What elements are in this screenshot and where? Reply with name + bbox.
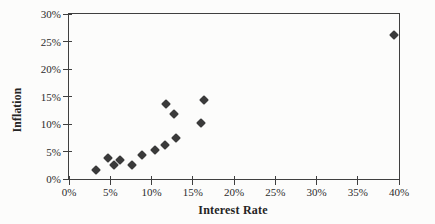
y-axis-tick-mark [63, 69, 72, 70]
y-axis-tick-mark [63, 124, 72, 125]
x-axis-title: Interest Rate [68, 203, 398, 218]
x-axis-tick-mark [69, 176, 70, 185]
x-axis-tick-label: 10% [132, 186, 172, 198]
x-axis-tick-label: 0% [49, 186, 89, 198]
y-axis-tick-label: 20% [31, 63, 61, 75]
plot-area: 0%5%10%15%20%25%30%0%5%10%15%20%25%30%35… [68, 13, 400, 180]
x-axis-tick-label: 5% [90, 186, 130, 198]
x-axis-tick-mark [110, 176, 111, 185]
x-axis-tick-mark [399, 176, 400, 185]
y-axis-tick-label: 15% [31, 91, 61, 103]
x-axis-tick-mark [192, 176, 193, 185]
y-axis-tick-label: 25% [31, 36, 61, 48]
x-axis-tick-mark [275, 176, 276, 185]
y-axis-tick-label: 30% [31, 8, 61, 20]
y-axis-tick-label: 10% [31, 118, 61, 130]
data-point-diamond [389, 30, 399, 40]
x-axis-tick-label: 20% [214, 186, 254, 198]
data-point-diamond [127, 160, 137, 170]
x-axis-tick-label: 15% [173, 186, 213, 198]
data-point-diamond [169, 109, 179, 119]
data-point-diamond [160, 140, 170, 150]
data-point-diamond [150, 145, 160, 155]
y-axis-title: Inflation [11, 88, 23, 133]
data-point-diamond [196, 118, 206, 128]
x-axis-tick-mark [151, 176, 152, 185]
y-axis-tick-mark [63, 179, 72, 180]
data-point-diamond [171, 133, 181, 143]
data-point-diamond [91, 165, 101, 175]
x-axis-tick-mark [357, 176, 358, 185]
x-axis-tick-mark [316, 176, 317, 185]
y-axis-tick-label: 5% [31, 146, 61, 158]
y-axis-tick-mark [63, 96, 72, 97]
x-axis-tick-label: 30% [297, 186, 337, 198]
data-point-diamond [137, 150, 147, 160]
x-axis-tick-label: 25% [255, 186, 295, 198]
y-axis-tick-label: 0% [31, 173, 61, 185]
scatter-chart-figure: Inflation 0%5%10%15%20%25%30%0%5%10%15%2… [0, 0, 435, 224]
data-point-diamond [161, 99, 171, 109]
x-axis-tick-label: 40% [379, 186, 419, 198]
y-axis-tick-mark [63, 151, 72, 152]
x-axis-tick-mark [234, 176, 235, 185]
x-axis-tick-label: 35% [338, 186, 378, 198]
data-point-diamond [199, 95, 209, 105]
y-axis-tick-mark [63, 41, 72, 42]
y-axis-tick-mark [63, 14, 72, 15]
